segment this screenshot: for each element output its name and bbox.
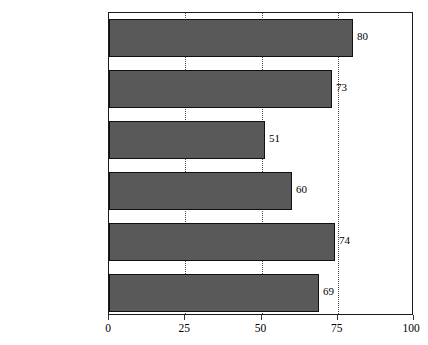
bar-amount-of-variety [109, 19, 353, 57]
xtick-mark-0 [108, 315, 109, 320]
bar-chart: Amount of Variety 1991 vs. 1980 Future V… [0, 0, 428, 345]
bar-value-future-variety: 73 [336, 82, 347, 93]
xtick-label-50: 50 [255, 322, 267, 334]
bar-value-extent-customizable: 60 [296, 184, 307, 195]
bar-extent-customized [109, 121, 265, 159]
bar-value-amount-of-variety: 80 [357, 31, 368, 42]
gridline-25 [185, 13, 186, 314]
bar-extent-customizable [109, 172, 292, 210]
xtick-label-100: 100 [402, 322, 419, 334]
bar-value-customization-level: 74 [339, 235, 350, 246]
bar-future-customization [109, 274, 319, 312]
xtick-mark-75 [337, 315, 338, 320]
xtick-label-25: 25 [179, 322, 191, 334]
bar-value-future-customization: 69 [323, 286, 334, 297]
xtick-mark-50 [261, 315, 262, 320]
bar-future-variety [109, 70, 332, 108]
xtick-mark-100 [413, 315, 414, 320]
bar-customization-level [109, 223, 335, 261]
bar-value-extent-customized: 51 [269, 133, 280, 144]
xtick-label-0: 0 [105, 322, 111, 334]
gridline-75 [338, 13, 339, 314]
xtick-label-75: 75 [331, 322, 343, 334]
gridline-50 [262, 13, 263, 314]
xtick-mark-25 [184, 315, 185, 320]
plot-area [108, 12, 413, 315]
